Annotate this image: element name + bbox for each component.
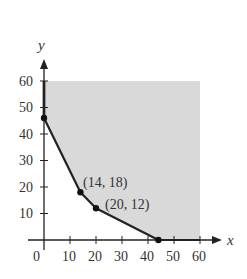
- vertex-point: [93, 205, 99, 211]
- x-tick-label: 30: [114, 249, 128, 264]
- y-tick-label: 50: [19, 100, 33, 115]
- y-tick-label: 40: [19, 127, 33, 142]
- shaded-feasible-region: [44, 81, 200, 240]
- vertex-point: [155, 237, 161, 243]
- y-axis-label: y: [36, 37, 45, 53]
- x-axis-arrow-icon: [212, 236, 222, 244]
- x-tick-label: 10: [62, 249, 76, 264]
- feasible-region-chart: 0 10 20 30 40 50 60 10 20 30 40 50 60 x …: [0, 0, 247, 279]
- vertex-point: [77, 189, 83, 195]
- x-tick-label: 20: [88, 249, 102, 264]
- y-tick-label: 60: [19, 74, 33, 89]
- x-tick-label: 40: [140, 249, 154, 264]
- point-label-14-18: (14, 18): [83, 175, 128, 191]
- x-axis-label: x: [226, 232, 234, 248]
- y-tick-label: 10: [19, 206, 33, 221]
- y-axis-arrow-icon: [40, 59, 48, 69]
- x-tick-label: 60: [192, 249, 206, 264]
- vertex-point: [41, 115, 47, 121]
- x-origin-label: 0: [33, 249, 40, 264]
- y-tick-label: 30: [19, 153, 33, 168]
- point-label-20-12: (20, 12): [105, 197, 150, 213]
- x-tick-label: 50: [166, 249, 180, 264]
- y-tick-label: 20: [19, 180, 33, 195]
